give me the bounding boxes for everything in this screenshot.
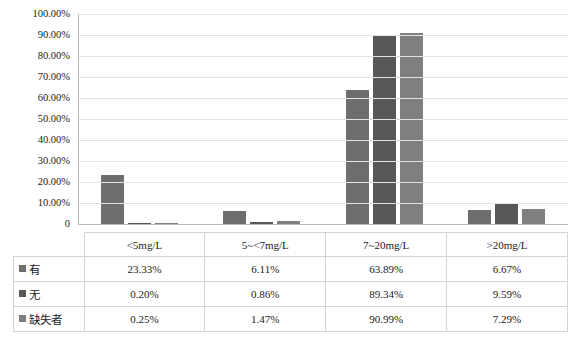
- table-cell: 0.25%: [84, 307, 205, 332]
- gridline: [78, 119, 568, 120]
- bar-group: [201, 0, 324, 225]
- bar-chart: 100.00%90.00%80.00%70.00%60.00%50.00%40.…: [0, 0, 579, 232]
- y-axis-tick-label: 10.00%: [38, 198, 70, 209]
- table-cell: 63.89%: [326, 257, 447, 282]
- table-cell: 9.59%: [447, 282, 568, 307]
- table-cell: 90.99%: [326, 307, 447, 332]
- legend-swatch-icon: [19, 315, 26, 322]
- bar: [373, 36, 396, 224]
- table-row: 缺失者0.25%1.47%90.99%7.29%: [14, 307, 568, 332]
- gridline: [78, 161, 568, 162]
- legend-entry: 无: [14, 282, 85, 307]
- y-axis-tick-label: 30.00%: [38, 156, 70, 167]
- y-axis-line: [78, 14, 79, 225]
- y-axis-tick-label: 20.00%: [38, 177, 70, 188]
- table-cell: 0.86%: [205, 282, 326, 307]
- gridline: [78, 77, 568, 78]
- table-row: 有23.33%6.11%63.89%6.67%: [14, 257, 568, 282]
- y-axis-tick-label: 90.00%: [38, 30, 70, 41]
- table-header-row: <5mg/L5~<7mg/L7~20mg/L>20mg/L: [14, 233, 568, 257]
- y-axis-labels: 100.00%90.00%80.00%70.00%60.00%50.00%40.…: [0, 0, 74, 232]
- gridline: [78, 203, 568, 204]
- gridline: [78, 56, 568, 57]
- bar-groups: [78, 0, 568, 225]
- legend-swatch-icon: [19, 290, 26, 297]
- legend-entry: 有: [14, 257, 85, 282]
- gridline: [78, 140, 568, 141]
- y-axis-tick-label: 100.00%: [32, 9, 70, 20]
- y-axis-tick-label: 80.00%: [38, 51, 70, 62]
- bar: [400, 33, 423, 224]
- legend-label: 无: [29, 289, 40, 301]
- gridline: [78, 98, 568, 99]
- gridline: [78, 182, 568, 183]
- x-axis-line: [78, 224, 568, 225]
- table-cell: 0.20%: [84, 282, 205, 307]
- y-axis-tick-label: 0: [65, 219, 70, 230]
- bar: [223, 211, 246, 224]
- table-column-header: 7~20mg/L: [326, 233, 447, 257]
- gridline: [78, 14, 568, 15]
- table-column-header: 5~<7mg/L: [205, 233, 326, 257]
- bar-group: [78, 0, 201, 225]
- bar: [522, 209, 545, 224]
- legend-label: 缺失者: [29, 314, 62, 326]
- legend-label: 有: [29, 264, 40, 276]
- table-cell: 1.47%: [205, 307, 326, 332]
- bar-group: [446, 0, 569, 225]
- table-cell: 6.67%: [447, 257, 568, 282]
- bar: [468, 210, 491, 224]
- table-cell: 6.11%: [205, 257, 326, 282]
- table-cell: 23.33%: [84, 257, 205, 282]
- plot-area: [78, 0, 568, 232]
- table-column-header: >20mg/L: [447, 233, 568, 257]
- gridline: [78, 35, 568, 36]
- legend-swatch-icon: [19, 265, 26, 272]
- y-axis-tick-label: 70.00%: [38, 72, 70, 83]
- bar-group: [323, 0, 446, 225]
- data-table: <5mg/L5~<7mg/L7~20mg/L>20mg/L有23.33%6.11…: [13, 232, 568, 332]
- chart-page: 100.00%90.00%80.00%70.00%60.00%50.00%40.…: [0, 0, 579, 338]
- table-corner-cell: [14, 233, 85, 257]
- table-column-header: <5mg/L: [84, 233, 205, 257]
- y-axis-tick-label: 60.00%: [38, 93, 70, 104]
- y-axis-tick-label: 40.00%: [38, 135, 70, 146]
- table-row: 无0.20%0.86%89.34%9.59%: [14, 282, 568, 307]
- table-cell: 89.34%: [326, 282, 447, 307]
- table-cell: 7.29%: [447, 307, 568, 332]
- legend-entry: 缺失者: [14, 307, 85, 332]
- bar: [495, 204, 518, 224]
- y-axis-tick-label: 50.00%: [38, 114, 70, 125]
